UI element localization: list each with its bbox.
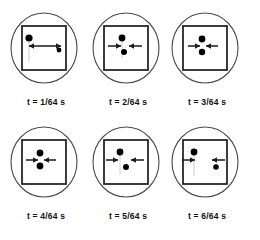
small-dot: [57, 48, 62, 53]
panel-circle-boundary: [11, 127, 77, 197]
lower-dot: [123, 164, 129, 170]
panel-6: t = 6/64 s: [168, 122, 246, 234]
panel-caption-4: t = 4/64 s: [7, 211, 85, 221]
panel-diagram-1: [7, 8, 85, 100]
upper-dot: [117, 149, 124, 156]
panel-caption-5: t = 5/64 s: [89, 211, 167, 221]
lower-dot: [121, 49, 127, 55]
panel-4: t = 4/64 s: [7, 122, 85, 234]
panel-circle-boundary: [172, 127, 238, 197]
panel-diagram-2: [89, 8, 167, 100]
panel-caption-3: t = 3/64 s: [168, 97, 246, 107]
upper-dot: [119, 35, 126, 42]
panel-diagram-4: [7, 122, 85, 214]
panel-3: t = 3/64 s: [168, 8, 246, 120]
panel-circle-boundary: [172, 13, 238, 83]
lower-dot: [199, 49, 205, 55]
right-dot: [213, 164, 219, 170]
figure-panel-grid: t = 1/64 st = 2/64 st = 3/64 st = 4/64 s…: [0, 0, 260, 240]
lower-dot: [37, 163, 44, 170]
panel-1: t = 1/64 s: [7, 8, 85, 120]
panel-circle-boundary: [93, 127, 159, 197]
arrow-from-left: [108, 43, 121, 49]
panel-circle-boundary: [11, 13, 77, 83]
large-dot: [25, 34, 32, 41]
panel-square-frame: [183, 26, 227, 70]
double-arrow-horizontal: [29, 43, 61, 49]
panel-diagram-5: [89, 122, 167, 214]
panel-2: t = 2/64 s: [89, 8, 167, 120]
panel-square-frame: [183, 140, 227, 184]
arrow-from-right: [129, 43, 142, 49]
arrow-from-right: [206, 43, 218, 49]
panel-caption-6: t = 6/64 s: [168, 211, 246, 221]
panel-square-frame: [22, 140, 66, 184]
arrow-from-left: [26, 157, 38, 163]
upper-dot: [199, 36, 206, 43]
left-dot: [191, 149, 198, 156]
panel-caption-1: t = 1/64 s: [7, 97, 85, 107]
panel-5: t = 5/64 s: [89, 122, 167, 234]
panel-square-frame: [104, 26, 148, 70]
panel-circle-boundary: [93, 13, 159, 83]
panel-diagram-6: [168, 122, 246, 214]
panel-caption-2: t = 2/64 s: [89, 97, 167, 107]
arrow-from-left: [188, 43, 200, 49]
arrow-from-right: [44, 157, 56, 163]
panel-square-frame: [104, 140, 148, 184]
panel-diagram-3: [168, 8, 246, 100]
arrow-from-right: [131, 157, 144, 163]
upper-dot: [37, 150, 44, 157]
arrow-from-right: [212, 157, 225, 163]
arrow-from-left: [106, 157, 118, 163]
arrow-from-left: [182, 157, 195, 163]
